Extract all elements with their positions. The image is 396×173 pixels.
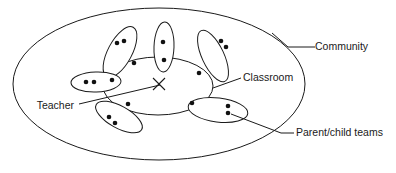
parent-child-team-ellipse	[153, 22, 175, 73]
member-dot	[115, 41, 120, 46]
member-dot	[161, 40, 166, 45]
member-dot	[122, 39, 127, 44]
parent-child-team-ellipse	[187, 94, 249, 125]
community-callout-label: Community	[315, 40, 369, 52]
parent-child-callout-label: Parent/child teams	[296, 126, 383, 138]
teacher-callout-label: Teacher	[37, 99, 75, 111]
member-dot	[84, 80, 89, 85]
community-callout: Community	[272, 33, 369, 52]
classroom-callout-label: Classroom	[243, 71, 293, 83]
member-dot	[219, 39, 224, 44]
member-dot	[190, 101, 195, 106]
member-dot	[107, 115, 112, 120]
member-dot	[197, 71, 202, 76]
member-dot	[226, 104, 231, 109]
member-dot	[162, 58, 167, 63]
member-dot	[224, 45, 229, 50]
member-dot	[132, 61, 137, 66]
member-dot	[126, 102, 131, 107]
member-dot	[92, 80, 97, 85]
nested-set-diagram: CommunityClassroomTeacherParent/child te…	[0, 0, 396, 173]
member-dot	[110, 78, 115, 83]
parent-child-callout: Parent/child teams	[231, 114, 383, 138]
member-dot	[226, 111, 231, 116]
parent-child-team-ellipse	[191, 26, 235, 86]
diagram-canvas: CommunityClassroomTeacherParent/child te…	[0, 0, 396, 173]
member-dot	[113, 121, 118, 126]
teacher-marker	[153, 78, 165, 90]
parent-child-team-ellipse	[91, 95, 147, 139]
